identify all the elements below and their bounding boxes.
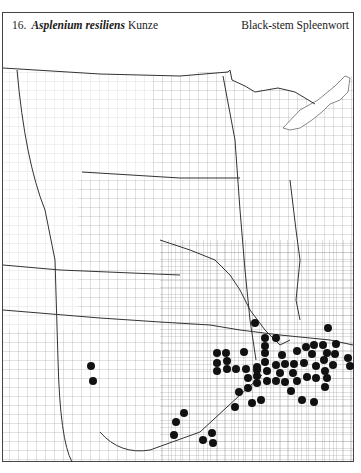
occurrence-dot bbox=[321, 367, 329, 375]
occurrence-dot bbox=[319, 341, 327, 349]
occurrence-dot bbox=[253, 372, 261, 380]
occurrence-dot bbox=[298, 396, 306, 404]
occurrence-dot bbox=[261, 334, 269, 342]
occurrence-dot bbox=[89, 377, 97, 385]
occurrence-dot bbox=[263, 367, 271, 375]
occurrence-dot bbox=[240, 348, 248, 356]
occurrence-dot bbox=[213, 349, 221, 357]
occurrence-dot bbox=[209, 439, 217, 447]
occurrence-dot bbox=[170, 431, 178, 439]
occurrence-dot bbox=[312, 374, 320, 382]
occurrence-dot bbox=[248, 399, 256, 407]
occurrence-dot bbox=[323, 374, 331, 382]
occurrence-dot bbox=[323, 349, 331, 357]
occurrence-dot bbox=[232, 365, 240, 373]
occurrence-dot bbox=[332, 340, 340, 348]
occurrence-dot bbox=[261, 358, 269, 366]
occurrence-dot bbox=[263, 377, 271, 385]
occurrence-dot bbox=[261, 349, 269, 357]
occurrence-dot bbox=[289, 369, 297, 377]
occurrence-dot bbox=[272, 361, 280, 369]
occurrence-dot bbox=[261, 342, 269, 350]
occurrence-dot bbox=[290, 360, 298, 368]
occurrence-dot bbox=[293, 347, 301, 355]
occurrence-dot bbox=[242, 365, 250, 373]
occurrence-dot bbox=[222, 349, 230, 357]
occurrence-dot bbox=[331, 350, 339, 358]
occurrence-dot bbox=[223, 357, 231, 365]
occurrence-dot bbox=[180, 409, 188, 417]
occurrence-dot bbox=[321, 383, 329, 391]
occurrence-dot bbox=[308, 350, 316, 358]
occurrence-dot bbox=[172, 418, 180, 426]
occurrence-dot bbox=[346, 362, 354, 370]
occurrence-dot bbox=[251, 319, 259, 327]
occurrence-dot bbox=[223, 365, 231, 373]
occurrence-dot bbox=[208, 429, 216, 437]
occurrence-dot bbox=[312, 362, 320, 370]
occurrence-dot bbox=[300, 359, 308, 367]
occurrence-dot bbox=[199, 436, 207, 444]
occurrence-dot bbox=[244, 384, 252, 392]
occurrence-dot bbox=[235, 388, 243, 396]
occurrence-dot bbox=[329, 361, 337, 369]
occurrence-dot bbox=[253, 379, 261, 387]
occurrence-dot bbox=[213, 367, 221, 375]
occurrence-dot bbox=[303, 373, 311, 381]
occurrence-dot bbox=[344, 354, 352, 362]
occurrence-dot bbox=[257, 396, 265, 404]
occurrence-dot bbox=[278, 351, 286, 359]
occurrence-dot bbox=[87, 362, 95, 370]
occurrence-dot bbox=[287, 387, 295, 395]
distribution-map bbox=[0, 0, 361, 473]
occurrence-dot bbox=[324, 324, 332, 332]
occurrence-dot bbox=[276, 369, 284, 377]
occurrence-dot bbox=[281, 378, 289, 386]
occurrence-dot bbox=[244, 374, 252, 382]
occurrence-dot bbox=[310, 341, 318, 349]
occurrence-dot bbox=[213, 359, 221, 367]
occurrence-dot bbox=[272, 377, 280, 385]
occurrence-dot bbox=[281, 360, 289, 368]
occurrence-dot bbox=[320, 356, 328, 364]
occurrence-dot bbox=[310, 398, 318, 406]
occurrence-dot bbox=[231, 403, 239, 411]
occurrence-dot bbox=[293, 377, 301, 385]
occurrence-dot bbox=[302, 343, 310, 351]
occurrence-dot bbox=[272, 334, 280, 342]
